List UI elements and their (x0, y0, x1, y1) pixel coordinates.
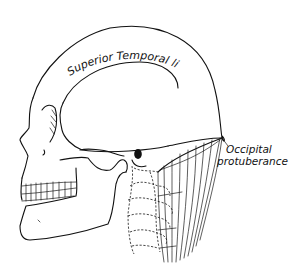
orbit (42, 105, 57, 142)
mandible (20, 168, 126, 240)
superior-temporal-line-label: Superior Temporal line (0, 0, 181, 79)
occipital-label-line2: protuberance (216, 155, 288, 167)
mastoid-outline (132, 160, 146, 167)
occipital-label-line1: Occipital (226, 143, 272, 155)
zygomatic-arch (60, 149, 127, 172)
neck-muscle-fibers (158, 138, 222, 262)
nasal-notch (43, 150, 45, 155)
mental-foramen (38, 220, 40, 222)
cervical-vertebrae (128, 166, 173, 254)
auditory-meatus (134, 149, 142, 159)
skull-illustration: Superior Temporal line Occipital protube… (0, 0, 294, 275)
cranium-outline (20, 26, 224, 178)
